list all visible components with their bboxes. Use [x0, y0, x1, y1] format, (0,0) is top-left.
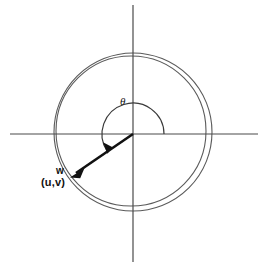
- vector-w-label: w: [56, 166, 64, 176]
- vector-diagram-figure: θ w (u,v): [0, 0, 264, 272]
- diagram-canvas: [0, 0, 264, 272]
- vector-w-arrowhead: [70, 168, 84, 178]
- theta-label: θ: [120, 96, 125, 107]
- vector-w-shaft: [76, 134, 133, 173]
- vector-components-label: (u,v): [41, 177, 65, 188]
- inner-circle: [56, 56, 206, 206]
